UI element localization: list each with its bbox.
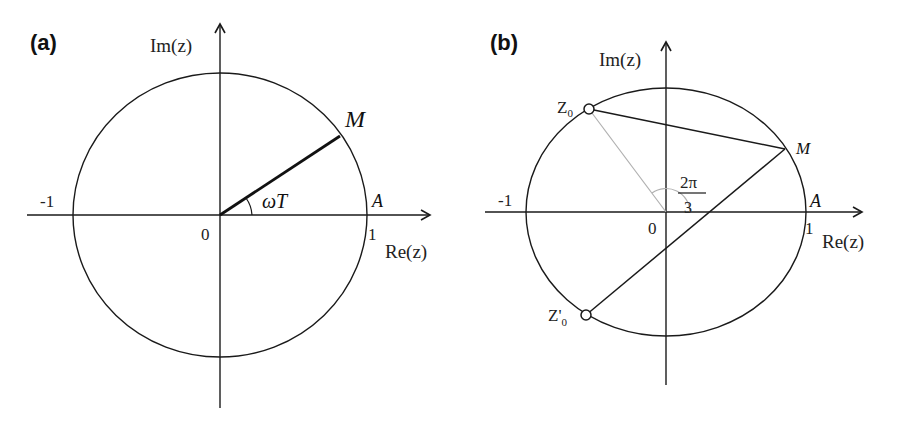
- point-M-b: M: [795, 139, 811, 158]
- point-Z0-marker: [584, 104, 594, 114]
- chord-Z0-M-b: [589, 109, 785, 149]
- point-Z0-prime-label: Z'0: [548, 306, 567, 328]
- point-Z0-label: Z0: [557, 98, 573, 119]
- tick-one-a: 1: [368, 225, 377, 244]
- panel-a-label: (a): [30, 30, 57, 55]
- tick-origin-a: 0: [201, 225, 210, 244]
- panel-b: (b) Im(z) Re(z) -1 0 1 M A Z0 Z'0 2π 3: [485, 30, 864, 385]
- point-A-a: A: [371, 191, 384, 211]
- tick-origin-b: 0: [648, 219, 657, 238]
- panel-a: (a) Im(z) Re(z) -1 0 1 M A ωT: [27, 24, 430, 408]
- angle-label-a: ωT: [262, 190, 289, 212]
- imag-axis-label-b: Im(z): [599, 49, 641, 71]
- tick-neg-one-a: -1: [40, 192, 54, 211]
- imag-axis-label-a: Im(z): [150, 35, 192, 57]
- radius-OZ0-b: [589, 109, 666, 212]
- real-axis-label-a: Re(z): [385, 241, 427, 263]
- angle-label-numerator-b: 2π: [680, 173, 698, 192]
- unit-circle-figure: (a) Im(z) Re(z) -1 0 1 M A ωT (b) Im(z) …: [0, 0, 911, 429]
- point-M-a: M: [344, 106, 367, 132]
- point-A-b: A: [809, 191, 822, 211]
- angle-arc-a: [246, 198, 252, 215]
- angle-label-denominator-b: 3: [684, 199, 692, 216]
- real-axis-label-b: Re(z): [822, 231, 864, 253]
- tick-one-b: 1: [805, 219, 814, 238]
- panel-b-label: (b): [490, 30, 518, 55]
- point-Z0-prime-marker: [581, 310, 591, 320]
- tick-neg-one-b: -1: [498, 191, 512, 210]
